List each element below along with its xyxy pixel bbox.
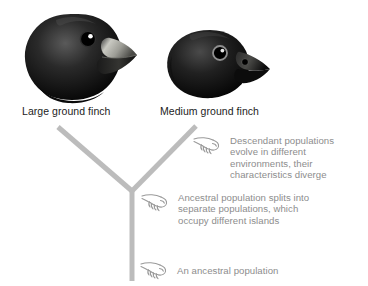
annotation-split-text: Ancestral population splits into separat…	[178, 192, 309, 226]
species-label-large-ground-finch: Large ground finch	[22, 105, 110, 117]
finch-eye-catchlight	[221, 49, 225, 53]
speciation-figure: Large ground finch Medium ground finch D…	[0, 0, 368, 286]
species-label-medium-ground-finch: Medium ground finch	[160, 105, 259, 117]
annotation-population-splits: Ancestral population splits into separat…	[140, 192, 309, 226]
finch-beak-lower	[234, 69, 270, 83]
finch-head-shape	[25, 14, 122, 100]
annotation-descendant-populations: Descendant populations evolve in differe…	[192, 134, 334, 181]
large-ground-finch-image	[16, 8, 140, 104]
annotation-descendant-text: Descendant populations evolve in differe…	[230, 134, 334, 181]
annotation-ancestral-text: An ancestral population	[177, 260, 278, 276]
finch-eye-catchlight	[88, 34, 93, 39]
pointing-hand-icon	[139, 260, 173, 282]
medium-ground-finch-image	[158, 26, 274, 104]
tree-left-branch	[58, 127, 132, 191]
finch-beak-upper	[101, 38, 137, 59]
annotation-ancestral-population: An ancestral population	[139, 260, 278, 282]
tree-right-branch	[132, 126, 196, 191]
pointing-hand-icon	[140, 192, 174, 214]
finch-head-shape	[167, 30, 249, 98]
pointing-hand-icon	[192, 135, 226, 157]
